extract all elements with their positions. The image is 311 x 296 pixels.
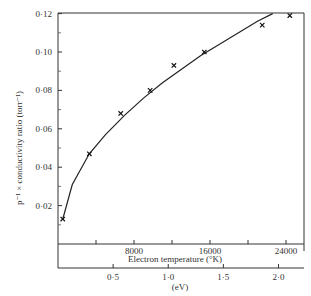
data-point-marker — [260, 23, 264, 27]
x-axis-ticks-ev: 0·51·01·52·0 — [107, 264, 285, 282]
y-tick-label: 0·08 — [36, 85, 53, 95]
x2-tick-label: 1·0 — [162, 272, 174, 282]
data-point-marker — [119, 111, 123, 115]
data-point-marker — [87, 152, 91, 156]
data-point-marker — [172, 63, 176, 67]
x-axis-title: Electron temperature (°K) — [128, 254, 222, 264]
x2-axis-title: (eV) — [172, 282, 189, 292]
plot-frame — [58, 13, 304, 268]
x-tick-label: 24000 — [275, 246, 298, 256]
y-axis-title: p⁻¹ × conductivity ratio (torr⁻¹) — [14, 91, 24, 205]
y-tick-label: 0·10 — [36, 47, 53, 57]
y-tick-label: 0·06 — [36, 124, 53, 134]
y-tick-label: 0·04 — [36, 162, 53, 172]
data-points — [61, 13, 292, 221]
x2-tick-label: 0·5 — [107, 272, 119, 282]
x2-tick-label: 1·5 — [217, 272, 229, 282]
y-tick-label: 0·12 — [36, 9, 53, 19]
y-tick-label: 0·02 — [36, 201, 53, 211]
fitted-curve — [63, 14, 273, 219]
chart: 0·020·040·060·080·100·12 80001600024000 … — [0, 0, 311, 296]
x2-tick-label: 2·0 — [272, 272, 284, 282]
data-point-marker — [288, 13, 292, 17]
